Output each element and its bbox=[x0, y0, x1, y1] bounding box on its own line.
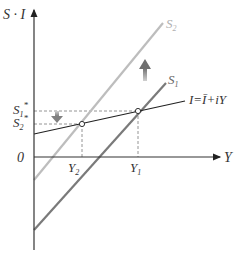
y-axis-label: S · I bbox=[3, 7, 27, 22]
equilibrium-point-1 bbox=[135, 108, 140, 113]
y1-label: Y1 bbox=[130, 160, 141, 177]
equilibrium-point-2 bbox=[79, 121, 84, 126]
shift-up-arrow-icon bbox=[139, 59, 151, 81]
origin-label: 0 bbox=[17, 150, 24, 165]
investment-label: I=Ī+iY bbox=[188, 92, 228, 107]
savings-investment-diagram: S · I Y 0 S2 S1 I=Ī+iY S1* S2* Y2 Y1 bbox=[0, 0, 245, 255]
s2-label: S2 bbox=[166, 16, 177, 33]
x-axis-label: Y bbox=[224, 150, 234, 165]
y2-label: Y2 bbox=[68, 160, 79, 177]
s1-label: S1 bbox=[168, 72, 179, 89]
shift-down-arrow-icon bbox=[51, 111, 63, 123]
